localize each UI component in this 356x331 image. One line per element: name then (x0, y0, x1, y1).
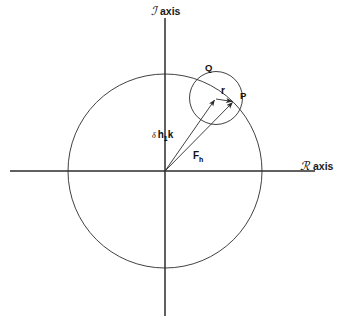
argand-diagram-figure: ℐaxis ℛaxis δh1k Fh r P Q (0, 0, 356, 331)
imaginary-axis-label: ℐaxis (151, 4, 181, 18)
vector-F-h-label: Fh (193, 150, 203, 163)
real-axis-label: ℛaxis (300, 159, 334, 173)
real-axis-glyph: ℛ (300, 159, 311, 173)
F-subscript: h (199, 156, 203, 163)
inner-circle (190, 72, 243, 125)
imaginary-axis-label-text: axis (160, 5, 181, 17)
vector-delta-h1-k-label: δh1k (152, 129, 174, 142)
imaginary-axis-glyph: ℐ (151, 4, 159, 18)
delta-k-letter: k (168, 129, 174, 140)
point-label-P: P (240, 90, 247, 101)
real-axis-label-text: axis (313, 160, 334, 172)
delta-symbol: δ (152, 131, 156, 140)
point-label-Q: Q (205, 62, 212, 73)
vector-r-label: r (221, 85, 225, 96)
